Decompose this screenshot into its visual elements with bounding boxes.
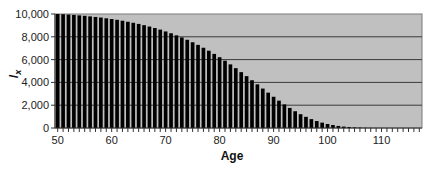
bar [158, 30, 162, 128]
x-tick-label: 70 [160, 134, 172, 146]
y-tick-label: 0 [43, 122, 49, 134]
bar [142, 25, 146, 128]
y-tick-label: 2,000 [21, 99, 49, 111]
bar [245, 76, 249, 128]
bar [277, 101, 281, 128]
bar [202, 48, 206, 128]
bar [131, 23, 135, 128]
bar [320, 123, 324, 128]
bar [239, 72, 243, 128]
x-tick-label: 110 [373, 134, 391, 146]
bar [83, 16, 87, 128]
bar [212, 54, 216, 128]
y-tick-label: 6,000 [21, 54, 49, 66]
bar [288, 108, 292, 128]
bar [250, 80, 254, 128]
bar [283, 104, 287, 128]
bar [56, 14, 60, 128]
x-tick-label: 50 [52, 134, 64, 146]
bar [148, 27, 152, 128]
bar [180, 37, 184, 128]
bar [299, 114, 303, 128]
y-tick-label: 4,000 [21, 76, 49, 88]
bar [77, 15, 81, 128]
bar [293, 111, 297, 128]
x-tick-label: 60 [106, 134, 118, 146]
bar [115, 20, 119, 128]
bar [310, 119, 314, 128]
bar [315, 121, 319, 128]
bar [61, 14, 65, 128]
bar [326, 124, 330, 128]
bar [266, 93, 270, 128]
bar [164, 31, 168, 128]
bar [110, 19, 114, 128]
x-axis-title: Age [221, 149, 244, 163]
survivorship-bar-chart: 02,0004,0006,0008,00010,000 506070809010… [0, 0, 432, 169]
bar [169, 33, 173, 128]
bar [121, 21, 125, 128]
bar [234, 68, 238, 128]
bar [272, 97, 276, 128]
bar [196, 45, 200, 128]
bar [218, 57, 222, 128]
bar [126, 22, 130, 128]
x-tick-label: 100 [318, 134, 336, 146]
bar [229, 64, 233, 128]
x-tick-label: 90 [267, 134, 279, 146]
bar [137, 24, 141, 128]
bar [304, 117, 308, 128]
x-tick-label: 80 [213, 134, 225, 146]
bar [94, 17, 98, 128]
bar [223, 61, 227, 128]
y-tick-label: 8,000 [21, 31, 49, 43]
y-axis-title: lx [7, 69, 23, 78]
bar [191, 42, 195, 128]
bar [153, 28, 157, 128]
x-axis: 5060708090100110 [52, 128, 422, 146]
bar [99, 18, 103, 128]
bar [256, 84, 260, 128]
bar [88, 16, 92, 128]
bar [261, 89, 265, 128]
bar [175, 35, 179, 128]
bar [67, 15, 71, 128]
bar [185, 40, 189, 128]
y-axis-title-sub: x [13, 69, 23, 76]
bar [104, 18, 108, 128]
y-tick-label: 10,000 [15, 8, 49, 20]
bar [72, 15, 76, 128]
bar [207, 51, 211, 128]
